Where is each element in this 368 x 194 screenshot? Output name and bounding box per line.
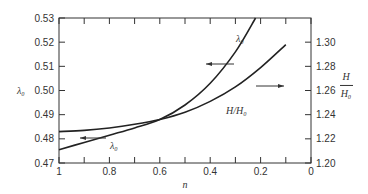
h-ratio-curve [59, 45, 286, 132]
h-ratio-label: H/H₀ [225, 105, 247, 116]
plot-frame [59, 18, 311, 163]
y-right-axis-label-num: H [341, 71, 350, 82]
lambda0-lower-arrow-head [80, 136, 86, 140]
y-left-tick-label: 0.51 [35, 61, 55, 72]
y-right-tick-label: 1.28 [316, 61, 336, 72]
y-right-tick-label: 1.24 [316, 109, 336, 120]
y-right-tick-label: 1.20 [316, 158, 336, 169]
axes [59, 18, 311, 163]
y-right-tick-label: 1.22 [316, 133, 336, 144]
chart: 10.80.60.40.20n0.470.480.490.500.510.520… [0, 0, 368, 194]
annotations: λ₀H/H₀λ₀ [80, 33, 284, 151]
h-ratio-arrow-head [278, 84, 284, 88]
lambda0-lower-label: λ₀ [109, 140, 118, 151]
x-tick-label: 0.4 [203, 166, 217, 177]
y-right-tick-label: 1.26 [316, 85, 336, 96]
y-right-axis-label-den: H₀ [340, 88, 352, 99]
lambda0-upper-label: λ₀ [235, 33, 244, 44]
y-left-tick-label: 0.48 [35, 133, 55, 144]
x-tick-label: 0.2 [254, 166, 268, 177]
y-left-axis-label: λ₀ [16, 85, 25, 96]
x-axis-label: n [183, 179, 188, 190]
x-tick-label: 0.6 [153, 166, 167, 177]
lambda0-upper-arrow-head [206, 62, 212, 66]
curves [59, 18, 286, 150]
y-left-tick-label: 0.53 [35, 13, 55, 24]
y-left-tick-label: 0.49 [35, 109, 55, 120]
x-tick-label: 1 [56, 166, 62, 177]
y-left-tick-label: 0.50 [35, 85, 55, 96]
x-tick-label: 0 [308, 166, 314, 177]
x-tick-label: 0.8 [102, 166, 116, 177]
y-left-tick-label: 0.47 [35, 158, 55, 169]
y-left-tick-label: 0.52 [35, 37, 55, 48]
y-right-tick-label: 1.30 [316, 37, 336, 48]
